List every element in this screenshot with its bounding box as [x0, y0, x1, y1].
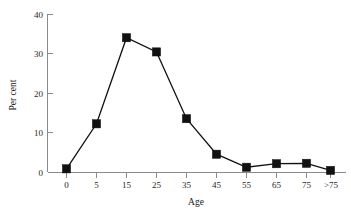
data-point-marker	[122, 34, 130, 42]
x-tick-label: 55	[242, 180, 252, 190]
y-tick-labels: 0 10 20 30 40	[34, 10, 44, 178]
data-point-marker	[302, 159, 310, 167]
data-point-marker	[272, 160, 280, 168]
x-tick-label: >75	[324, 180, 339, 190]
y-tick-marks	[48, 14, 53, 172]
x-tick-label: 15	[122, 180, 132, 190]
x-tick-label: 45	[212, 180, 222, 190]
data-point-marker	[212, 150, 220, 158]
y-axis-title: Per cent	[8, 79, 18, 110]
y-tick-label: 10	[34, 128, 44, 138]
data-point-marker	[92, 120, 100, 128]
data-point-marker	[242, 163, 250, 171]
x-tick-marks	[67, 173, 331, 178]
y-tick-label: 40	[34, 10, 44, 20]
data-point-marker	[326, 166, 334, 174]
x-tick-label: 75	[302, 180, 312, 190]
x-tick-label: 25	[152, 180, 162, 190]
chart-container: 0 10 20 30 40 0 5 15 25 35 45 55 65 75 >…	[0, 0, 351, 213]
data-point-marker	[182, 115, 190, 123]
x-tick-label: 5	[94, 180, 99, 190]
x-tick-label: 65	[272, 180, 282, 190]
x-tick-label: 0	[64, 180, 69, 190]
x-tick-label: 35	[182, 180, 192, 190]
data-point-marker	[152, 48, 160, 56]
data-point-marker	[62, 165, 70, 173]
line-chart: 0 10 20 30 40 0 5 15 25 35 45 55 65 75 >…	[0, 0, 351, 213]
y-tick-label: 30	[34, 49, 44, 59]
series-line	[67, 38, 331, 171]
y-tick-label: 0	[39, 168, 44, 178]
x-tick-labels: 0 5 15 25 35 45 55 65 75 >75	[64, 180, 338, 190]
y-tick-label: 20	[34, 89, 44, 99]
x-axis-title: Age	[188, 197, 204, 207]
